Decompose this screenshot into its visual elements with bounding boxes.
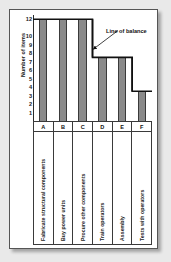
y-tick-label: 8 (29, 51, 32, 57)
y-tick-label: 4 (29, 85, 32, 91)
category-label-cell: Tests with operators (132, 132, 151, 244)
y-tick-label: 12 (26, 17, 32, 23)
category-letter: F (132, 122, 151, 132)
category-label: Train operators (99, 202, 105, 241)
category-column-f: FTests with operators (132, 122, 151, 244)
category-label-cell: Buy power units (54, 132, 73, 244)
chart-panel: Number of items 1210987654321 Line of ba… (9, 9, 158, 249)
category-letter: D (93, 122, 112, 132)
y-tick-label: 5 (29, 77, 32, 83)
y-tick-label: 2 (29, 102, 32, 108)
y-tick-label: 3 (29, 94, 32, 100)
category-label: Tests with operators (139, 190, 145, 241)
category-table: AFabricate structural componentsBBuy pow… (33, 121, 152, 245)
y-tick-label: 9 (29, 43, 32, 49)
category-column-c: CProcure other components (73, 122, 93, 244)
category-label-cell: Train operators (93, 132, 112, 244)
category-column-b: BBuy power units (54, 122, 74, 244)
y-tick-label: 10 (26, 34, 32, 40)
category-label: Assembly (119, 216, 125, 241)
category-column-a: AFabricate structural components (34, 122, 54, 244)
y-tick-label: 6 (29, 68, 32, 74)
y-tick-label: 7 (29, 60, 32, 66)
category-label: Fabricate structural components (40, 159, 46, 241)
category-letter: B (54, 122, 73, 132)
category-column-d: DTrain operators (93, 122, 113, 244)
category-label: Buy power units (60, 200, 66, 241)
category-column-e: EAssembly (113, 122, 133, 244)
category-letter: A (34, 122, 53, 132)
category-label: Procure other components (80, 174, 86, 242)
figure-canvas: Number of items 1210987654321 Line of ba… (0, 0, 171, 262)
line-of-balance-annotation-label: Line of balance (106, 28, 147, 34)
category-label-cell: Assembly (113, 132, 132, 244)
category-label-cell: Procure other components (73, 132, 92, 244)
category-letter: E (113, 122, 132, 132)
category-label-cell: Fabricate structural components (34, 132, 53, 244)
y-tick-label: 1 (29, 111, 32, 117)
y-axis-tick-labels: 1210987654321 (22, 16, 32, 120)
category-letter: C (73, 122, 92, 132)
